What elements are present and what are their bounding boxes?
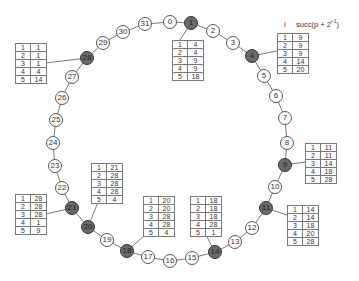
finger-table-row: 414 [278,58,309,66]
ring-node: 0 [163,15,177,29]
finger-successor: 9 [31,227,47,235]
finger-successor: 20 [159,197,175,205]
finger-index: 4 [16,68,31,76]
ring-node: 8 [280,136,294,150]
legend-succ-label: succ(p + 2 [296,20,331,29]
finger-table-node-11: 114214318420528 [287,205,319,246]
finger-index: 1 [16,44,31,52]
finger-index: 4 [16,219,31,227]
finger-successor: 4 [107,196,123,204]
finger-table-node-9: 111211314418528 [305,143,337,184]
ring-node: 15 [185,251,199,265]
ring-node: 24 [46,136,60,150]
finger-table-row: 314 [306,160,337,168]
finger-index: 3 [16,60,31,68]
finger-table-row: 41 [16,219,47,227]
finger-table-row: 54 [92,196,123,204]
active-peer-node: 20 [81,220,95,234]
finger-table-row: 211 [306,152,337,160]
finger-index: 4 [306,168,321,176]
finger-table-row: 118 [191,197,222,205]
finger-successor: 1 [31,52,47,60]
finger-successor: 20 [159,205,175,213]
active-peer-node: 21 [65,201,79,215]
finger-index: 5 [306,176,321,184]
finger-successor: 9 [188,57,204,65]
finger-table-row: 318 [191,213,222,221]
finger-index: 4 [288,230,303,238]
finger-successor: 18 [206,197,222,205]
finger-table-row: 51 [191,229,222,237]
finger-successor: 28 [107,172,123,180]
finger-table-row: 220 [144,205,175,213]
finger-index: 2 [288,214,303,222]
finger-index: 5 [16,227,31,235]
finger-successor: 9 [293,34,309,42]
ring-node: 27 [65,70,79,84]
finger-table-row: 418 [306,168,337,176]
finger-successor: 28 [206,221,222,229]
finger-index: 2 [16,52,31,60]
ring-node: 16 [163,254,177,268]
ring-node: 22 [55,181,69,195]
finger-index: 5 [173,73,188,81]
ring-node: 25 [49,113,63,127]
finger-index: 5 [144,229,159,237]
ring-node: 12 [245,221,259,235]
finger-table-row: 228 [16,203,47,211]
finger-successor: 28 [159,221,175,229]
finger-successor: 18 [206,205,222,213]
finger-successor: 14 [303,214,319,222]
finger-successor: 11 [321,152,337,160]
finger-table-node-18: 12022032842854 [143,196,175,237]
finger-successor: 9 [293,50,309,58]
finger-successor: 28 [107,180,123,188]
finger-index: 3 [173,57,188,65]
finger-index: 1 [92,164,107,172]
finger-successor: 9 [188,65,204,73]
active-peer-node: 11 [259,201,273,215]
finger-table-row: 44 [16,68,47,76]
finger-index: 4 [144,221,159,229]
finger-table-row: 31 [16,60,47,68]
ring-node: 13 [228,235,242,249]
finger-table-row: 19 [278,34,309,42]
finger-index: 2 [92,172,107,180]
finger-successor: 9 [293,42,309,50]
finger-table-row: 59 [16,227,47,235]
finger-table-row: 24 [173,49,204,57]
finger-index: 5 [92,196,107,204]
finger-successor: 11 [321,144,337,152]
finger-table-row: 128 [16,195,47,203]
ring-node: 17 [141,250,155,264]
active-peer-node: 18 [120,244,134,258]
finger-table-row: 420 [288,230,319,238]
finger-index: 3 [191,213,206,221]
finger-table-row: 328 [144,213,175,221]
finger-table-row: 428 [92,188,123,196]
finger-index: 4 [173,65,188,73]
finger-index: 2 [278,42,293,50]
legend-i-label: i [284,20,286,29]
finger-index: 1 [191,197,206,205]
finger-table-row: 14 [173,41,204,49]
finger-table-row: 228 [92,172,123,180]
finger-table-row: 328 [92,180,123,188]
ring-node: 30 [116,25,130,39]
ring-node: 10 [268,180,282,194]
finger-table-row: 218 [191,205,222,213]
finger-table-row: 11 [16,44,47,52]
finger-index: 1 [278,34,293,42]
ring-node: 3 [226,36,240,50]
finger-table-row: 520 [278,66,309,74]
finger-table-row: 518 [173,73,204,81]
finger-table-row: 214 [288,214,319,222]
finger-table-row: 21 [16,52,47,60]
finger-successor: 4 [159,229,175,237]
finger-successor: 28 [303,238,319,246]
finger-table-row: 428 [144,221,175,229]
ring-node: 26 [55,91,69,105]
finger-successor: 28 [321,176,337,184]
finger-table-node-1: 14243949518 [172,40,204,81]
finger-index: 3 [288,222,303,230]
